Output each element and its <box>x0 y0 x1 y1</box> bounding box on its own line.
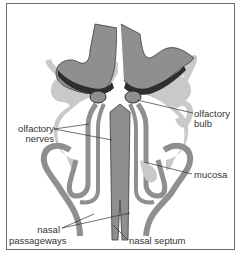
passageways-leader-line-2 <box>62 213 130 228</box>
right-olfactory-bulb <box>125 91 141 103</box>
label-nasal-passageways: nasal <box>8 225 60 235</box>
label-olfactory-nerves: olfactory nerves <box>8 124 54 144</box>
right-outer-passage <box>146 146 190 236</box>
label-nasal-passageways-line1: nasal <box>8 225 60 235</box>
label-mucosa: mucosa <box>194 170 227 180</box>
left-brain-lobe <box>56 24 117 94</box>
nasal-septum <box>110 104 130 240</box>
label-nasal-septum: nasal septum <box>129 236 186 246</box>
nerves-leader-line-2 <box>54 129 112 140</box>
label-olfactory-nerves-line2: nerves <box>8 134 54 144</box>
nerves-leader-line-1 <box>54 124 89 129</box>
label-olfactory-bulb: olfactory bulb <box>194 109 230 129</box>
left-olfactory-bulb <box>90 91 106 103</box>
left-nasal-arch <box>69 104 96 196</box>
label-olfactory-bulb-line2: bulb <box>194 119 230 129</box>
label-nasal-passageways-line2: passageways <box>9 236 67 246</box>
